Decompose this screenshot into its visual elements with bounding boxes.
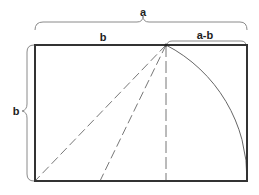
apex-point xyxy=(165,44,168,47)
label-b-left: b xyxy=(13,106,20,117)
label-a: a xyxy=(140,7,146,18)
brace-b-left xyxy=(22,45,34,181)
brace-a xyxy=(35,16,247,30)
golden-arc xyxy=(166,45,247,181)
golden-rectangle-diagram xyxy=(0,0,259,195)
dashed-diagonal-to-bottom-left xyxy=(35,45,166,181)
outer-rectangle xyxy=(35,45,247,181)
label-b-top: b xyxy=(100,32,107,43)
dashed-diagonal-to-midpoint xyxy=(100,45,166,181)
label-a-minus-b: a-b xyxy=(197,30,214,41)
